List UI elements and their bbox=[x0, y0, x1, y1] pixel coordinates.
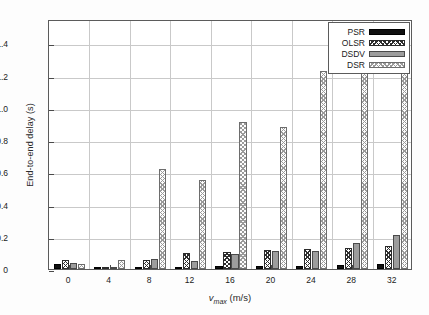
gridline-x-3 bbox=[170, 21, 171, 269]
x-axis-label-subscript: max bbox=[214, 298, 227, 305]
bar-dsdv-0 bbox=[70, 263, 77, 269]
x-tick-mark-16 bbox=[231, 265, 232, 269]
x-axis-label-unit: (m/s) bbox=[227, 292, 251, 303]
plot-area: PSROLSRDSDVDSR bbox=[48, 20, 412, 270]
x-tick-mark-20 bbox=[271, 265, 272, 269]
bar-dsdv-12 bbox=[191, 261, 198, 269]
gridline-x-5 bbox=[251, 21, 252, 269]
bar-dsr-0 bbox=[78, 264, 85, 269]
bar-dsr-24 bbox=[320, 71, 327, 269]
y-tick-mark-0.2 bbox=[49, 239, 54, 240]
bar-dsr-8 bbox=[159, 169, 166, 269]
x-tick-mark-8 bbox=[150, 265, 151, 269]
chart-legend: PSROLSRDSDVDSR bbox=[328, 22, 410, 74]
x-tick-label-24: 24 bbox=[291, 275, 331, 285]
y-tick-label-1.0: 1.0 bbox=[0, 104, 8, 114]
bar-psr-4 bbox=[94, 267, 101, 269]
y-tick-label-0.8: 0.8 bbox=[0, 136, 8, 146]
legend-swatch-dsr bbox=[369, 62, 405, 68]
x-tick-label-32: 32 bbox=[372, 275, 412, 285]
x-tick-mark-32 bbox=[393, 265, 394, 269]
bar-olsr-16 bbox=[223, 252, 230, 269]
x-tick-label-0: 0 bbox=[48, 275, 88, 285]
bar-psr-0 bbox=[54, 264, 61, 269]
y-tick-label-1.2: 1.2 bbox=[0, 72, 8, 82]
y-tick-mark-1.0 bbox=[49, 110, 54, 111]
gridline-y-0.6 bbox=[49, 174, 411, 175]
legend-item-olsr: OLSR bbox=[333, 37, 405, 48]
x-tick-mark-24 bbox=[312, 265, 313, 269]
y-tick-label-0.2: 0.2 bbox=[0, 233, 8, 243]
bar-psr-8 bbox=[135, 267, 142, 269]
bar-olsr-24 bbox=[304, 249, 311, 269]
bar-psr-16 bbox=[215, 266, 222, 269]
bar-olsr-0 bbox=[62, 260, 69, 269]
bar-dsdv-20 bbox=[272, 251, 279, 269]
x-tick-mark-12 bbox=[191, 265, 192, 269]
y-tick-label-0: 0 bbox=[0, 265, 8, 275]
bar-olsr-12 bbox=[183, 253, 190, 269]
gridline-x-2 bbox=[130, 21, 131, 269]
y-tick-label-0.4: 0.4 bbox=[0, 201, 8, 211]
y-tick-mark-0.6 bbox=[49, 174, 54, 175]
x-tick-label-8: 8 bbox=[129, 275, 169, 285]
bar-dsdv-8 bbox=[151, 259, 158, 269]
bar-dsr-28 bbox=[361, 61, 368, 269]
gridline-x-4 bbox=[211, 21, 212, 269]
x-tick-mark-28 bbox=[352, 265, 353, 269]
gridline-y-1.2 bbox=[49, 78, 411, 79]
legend-item-dsr: DSR bbox=[333, 59, 405, 70]
y-tick-mark-0.8 bbox=[49, 142, 54, 143]
y-tick-mark-1.4 bbox=[49, 45, 54, 46]
bar-psr-24 bbox=[296, 266, 303, 269]
x-axis-label: vmax (m/s) bbox=[48, 292, 412, 305]
bar-dsdv-24 bbox=[312, 251, 319, 269]
x-tick-label-28: 28 bbox=[331, 275, 371, 285]
y-tick-mark-0.4 bbox=[49, 207, 54, 208]
bar-psr-28 bbox=[337, 265, 344, 269]
bar-dsdv-32 bbox=[393, 235, 400, 269]
legend-label-olsr: OLSR bbox=[333, 38, 365, 48]
bar-psr-12 bbox=[175, 267, 182, 269]
gridline-y-0.2 bbox=[49, 239, 411, 240]
legend-label-dsr: DSR bbox=[333, 60, 365, 70]
bar-psr-20 bbox=[256, 266, 263, 269]
bar-dsr-32 bbox=[401, 42, 408, 269]
bar-dsr-16 bbox=[239, 122, 246, 269]
legend-item-dsdv: DSDV bbox=[333, 48, 405, 59]
bar-olsr-28 bbox=[345, 248, 352, 269]
x-tick-mark-4 bbox=[110, 265, 111, 269]
y-tick-label-1.4: 1.4 bbox=[0, 39, 8, 49]
y-tick-mark-1.2 bbox=[49, 78, 54, 79]
x-tick-label-16: 16 bbox=[210, 275, 250, 285]
legend-label-psr: PSR bbox=[333, 27, 365, 37]
y-tick-label-0.6: 0.6 bbox=[0, 168, 8, 178]
bar-dsdv-28 bbox=[353, 243, 360, 269]
bar-olsr-8 bbox=[143, 260, 150, 269]
bar-dsr-12 bbox=[199, 180, 206, 269]
x-tick-mark-0 bbox=[69, 265, 70, 269]
x-tick-label-20: 20 bbox=[250, 275, 290, 285]
bar-dsdv-4 bbox=[110, 267, 117, 269]
gridline-x-6 bbox=[292, 21, 293, 269]
y-tick-mark-0 bbox=[49, 271, 54, 272]
gridline-y-0.8 bbox=[49, 142, 411, 143]
legend-item-psr: PSR bbox=[333, 26, 405, 37]
legend-swatch-dsdv bbox=[369, 51, 405, 57]
bar-dsr-20 bbox=[280, 127, 287, 269]
gridline-y-0.4 bbox=[49, 207, 411, 208]
x-tick-label-4: 4 bbox=[89, 275, 129, 285]
bar-olsr-32 bbox=[385, 246, 392, 269]
gridline-x-1 bbox=[89, 21, 90, 269]
bar-olsr-20 bbox=[264, 250, 271, 269]
gridline-y-1.0 bbox=[49, 110, 411, 111]
bar-dsr-4 bbox=[118, 260, 125, 269]
bar-olsr-4 bbox=[102, 267, 109, 269]
legend-swatch-psr bbox=[369, 29, 405, 35]
bar-psr-32 bbox=[377, 264, 384, 269]
y-axis-label: End-to-end delay (s) bbox=[25, 55, 35, 235]
legend-swatch-olsr bbox=[369, 40, 405, 46]
legend-label-dsdv: DSDV bbox=[333, 49, 365, 59]
x-tick-label-12: 12 bbox=[170, 275, 210, 285]
bar-dsdv-16 bbox=[231, 254, 238, 269]
